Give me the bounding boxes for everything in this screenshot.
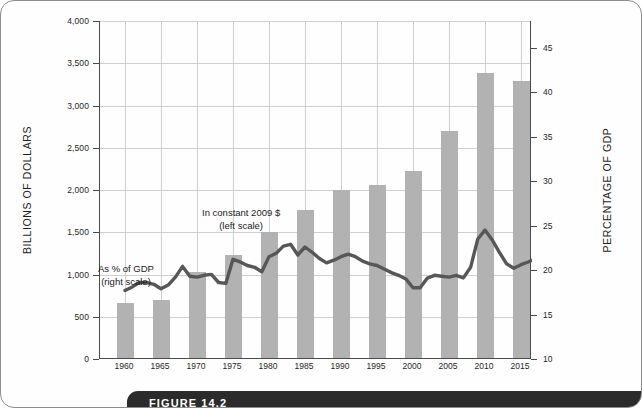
right-tick-label: 20 [543,265,552,275]
bars-annotation-line1: In constant 2009 $ [202,207,280,220]
left-axis-title: BILLIONS OF DOLLARS [21,126,33,254]
line-annotation-line1: As % of GDP [98,263,154,276]
bars-annotation: In constant 2009 $ (left scale) [202,207,280,233]
figure-caption-bar: FIGURE 14.2 [127,391,642,408]
gdp-percent-polyline [125,230,532,290]
left-tick-label: 500 [75,312,89,322]
right-tick-label: 10 [543,354,552,364]
left-axis-ticks: 0 500 1,000 1,500 2,000 2,500 3,000 3,50… [1,21,99,359]
left-tick-label: 0 [84,354,89,364]
x-tick-label: 1990 [331,361,350,371]
left-tick-label: 3,000 [67,101,89,111]
x-tick-label: 2010 [475,361,494,371]
x-tick-label: 1960 [115,361,134,371]
figure-caption-text: FIGURE 14.2 [149,397,227,408]
right-tick-label: 15 [543,310,552,320]
x-tick-label: 1965 [151,361,170,371]
left-tick-label: 2,000 [67,185,89,195]
right-axis-title: PERCENTAGE OF GDP [601,128,613,253]
right-tick-label: 35 [543,132,552,142]
left-tick-label: 1,000 [67,270,89,280]
x-tick-label: 1970 [187,361,206,371]
right-axis-ticks: 10 15 20 25 30 35 40 45 [531,21,642,359]
right-tick-label: 25 [543,221,552,231]
bars-annotation-line2: (left scale) [202,220,280,233]
line-annotation: As % of GDP (right scale) [98,263,154,289]
x-tick-label: 1985 [295,361,314,371]
x-tick-label: 2015 [511,361,530,371]
figure-card: 0 500 1,000 1,500 2,000 2,500 3,000 3,50… [0,0,642,408]
left-tick-label: 2,500 [67,143,89,153]
left-tick-label: 4,000 [67,16,89,26]
x-tick-label: 1975 [223,361,242,371]
plot-area: In constant 2009 $ (left scale) As % of … [99,21,531,359]
x-tick-label: 1980 [259,361,278,371]
line-annotation-line2: (right scale) [98,276,154,289]
left-tick-label: 1,500 [67,227,89,237]
x-tick-label: 2000 [403,361,422,371]
x-axis-labels: 1960 1965 1970 1975 1980 1985 1990 1995 … [99,361,531,379]
x-tick-label: 1995 [367,361,386,371]
left-tick-label: 3,500 [67,58,89,68]
right-tick-label: 40 [543,87,552,97]
x-tick-label: 2005 [439,361,458,371]
right-tick-label: 45 [543,43,552,53]
gdp-percent-line-series [100,21,532,359]
right-tick-label: 30 [543,176,552,186]
